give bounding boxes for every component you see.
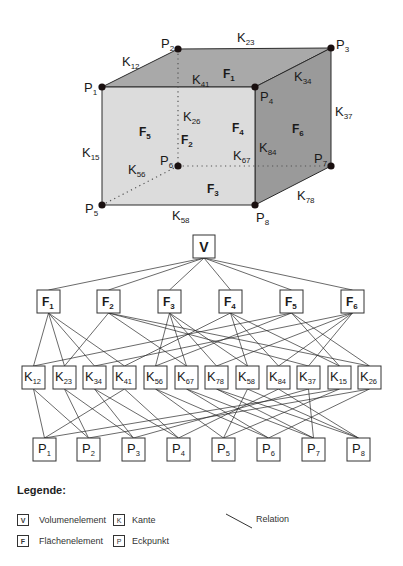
node-point-p8: P8	[347, 438, 370, 461]
legend-item-edge: K Kante	[113, 514, 156, 526]
relation-line	[45, 389, 125, 438]
legend-label-relation: Relation	[256, 514, 289, 524]
diagram-canvas: P1P2P3P4P5P6P7P8K12K23K41K34K37K26K15K67…	[0, 0, 403, 566]
vertex-label: P8	[256, 210, 270, 227]
legend-item-face: F Flächenelement	[17, 535, 103, 547]
legend-item-vertex: P Eckpunkt	[113, 535, 169, 547]
node-edge-k78: K78	[205, 366, 228, 389]
node-point-p6: P6	[257, 438, 280, 461]
relation-lines	[34, 258, 370, 438]
cube-illustration: P1P2P3P4P5P6P7P8K12K23K41K34K37K26K15K67…	[82, 30, 353, 227]
vertex-label: P5	[85, 201, 99, 218]
node-edge-k34: K34	[83, 366, 106, 389]
relation-line	[170, 258, 205, 290]
legend-v-icon: V	[17, 514, 29, 526]
relation-line	[170, 313, 248, 366]
node-point-p3: P3	[122, 438, 145, 461]
node-volume-v: V	[193, 235, 215, 258]
vertex-dot	[327, 44, 334, 51]
edge-label: K37	[335, 104, 353, 121]
node-edge-k56: K56	[144, 366, 167, 389]
relation-line	[125, 313, 231, 366]
relation-line	[34, 389, 45, 438]
node-face-f6: F6	[341, 290, 364, 313]
relation-line	[269, 389, 370, 438]
edge-label: K58	[172, 208, 190, 225]
relation-line	[49, 258, 205, 290]
legend-k-icon: K	[113, 514, 125, 526]
vertex-dot	[174, 45, 181, 52]
relation-line	[109, 258, 205, 290]
node-edge-k37: K37	[297, 366, 320, 389]
node-point-p5: P5	[212, 438, 235, 461]
relation-line	[34, 313, 49, 366]
node-point-p2: P2	[77, 438, 100, 461]
vertex-dot	[174, 162, 181, 169]
relation-line	[156, 389, 269, 438]
node-edge-k67: K67	[175, 366, 198, 389]
node-point-p1: P1	[33, 438, 56, 461]
cube-topology-diagram: P1P2P3P4P5P6P7P8K12K23K41K34K37K26K15K67…	[0, 0, 403, 566]
relation-line	[217, 389, 359, 438]
node-face-f3: F3	[158, 290, 181, 313]
legend-label-volume: Volumenelement	[39, 515, 106, 525]
relation-line	[309, 389, 314, 438]
node-edge-k15: K15	[328, 366, 351, 389]
legend-f-icon: F	[17, 535, 29, 547]
legend-title: Legende:	[17, 484, 66, 496]
vertex-label: P2	[161, 36, 175, 53]
relation-line	[34, 313, 292, 366]
node-edge-k41: K41	[113, 366, 136, 389]
relation-line	[95, 313, 353, 366]
cube-face-front	[102, 87, 255, 205]
edge-label: K15	[82, 145, 100, 162]
vertex-dot	[327, 162, 334, 169]
relation-line	[65, 389, 134, 438]
edge-label: K23	[237, 30, 255, 47]
relation-line	[231, 313, 248, 366]
relation-line	[89, 389, 370, 438]
node-label: V	[199, 239, 209, 255]
relation-line	[49, 313, 65, 366]
node-face-f5: F5	[280, 290, 303, 313]
node-edge-k84: K84	[267, 366, 290, 389]
node-edge-k26: K26	[358, 366, 381, 389]
vertex-dot	[98, 83, 105, 90]
legend-p-icon: P	[113, 535, 125, 547]
edge-label: K12	[122, 54, 140, 71]
node-edge-k12: K12	[22, 366, 45, 389]
vertex-label: P3	[336, 37, 350, 54]
node-face-f2: F2	[97, 290, 120, 313]
vertex-dot	[251, 201, 258, 208]
legend-label-vertex: Eckpunkt	[132, 536, 169, 546]
node-edge-k58: K58	[236, 366, 259, 389]
edge-label: K78	[297, 188, 315, 205]
node-face-f1: F1	[37, 290, 60, 313]
legend-item-volume: V Volumenelement	[17, 514, 106, 526]
node-edge-k23: K23	[53, 366, 76, 389]
vertex-label: P1	[84, 80, 98, 97]
vertex-dot	[98, 201, 105, 208]
legend-label-face: Flächenelement	[39, 536, 103, 546]
relation-line	[95, 389, 134, 438]
node-point-p4: P4	[167, 438, 190, 461]
legend-relation-line-icon	[226, 514, 252, 528]
node-face-f4: F4	[219, 290, 242, 313]
legend-item-relation: Relation	[256, 514, 289, 524]
relation-line	[34, 389, 89, 438]
node-point-p7: P7	[302, 438, 325, 461]
vertex-dot	[251, 83, 258, 90]
legend-label-edge: Kante	[132, 515, 156, 525]
